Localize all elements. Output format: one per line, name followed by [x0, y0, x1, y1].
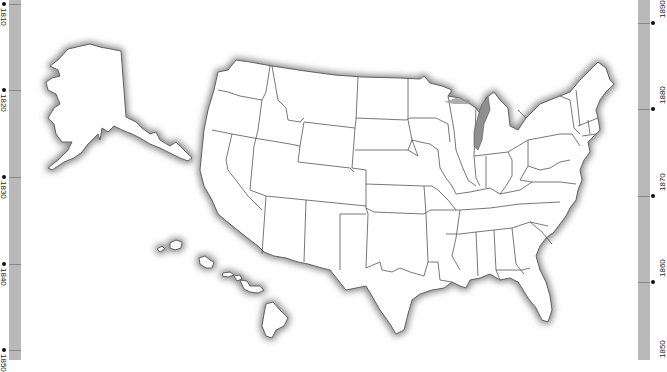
hawaii [157, 240, 288, 338]
timeline-label: 1850 [658, 340, 667, 358]
timeline-label: 1870 [658, 173, 667, 191]
timeline-label: 1890 [658, 0, 667, 18]
timeline-label: 1880 [658, 86, 667, 104]
timeline-label: 1860 [658, 259, 667, 277]
alaska [46, 44, 192, 170]
